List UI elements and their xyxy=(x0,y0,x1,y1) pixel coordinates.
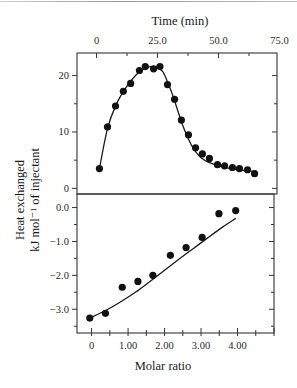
data-point xyxy=(244,166,251,173)
data-point xyxy=(104,123,111,130)
data-point xyxy=(127,80,134,87)
data-point xyxy=(229,164,236,171)
y-axis-title: Heat exchanged kJ mol⁻¹ of injectant xyxy=(13,148,42,252)
data-point xyxy=(232,207,239,214)
y-tick-label: 10 xyxy=(59,126,70,137)
data-point xyxy=(120,88,127,95)
y-axis-title-line1: Heat exchanged xyxy=(13,159,27,240)
bottom-axis-title: Molar ratio xyxy=(135,359,192,373)
data-point xyxy=(134,278,141,285)
data-point xyxy=(221,162,228,169)
data-point xyxy=(156,63,163,70)
x-tick-label: 50.0 xyxy=(209,35,227,46)
y-tick-label: −1.0 xyxy=(50,236,69,247)
data-point xyxy=(251,170,258,177)
data-point xyxy=(167,252,174,259)
y-tick-label: 20 xyxy=(59,70,70,81)
top-axis-title: Time (min) xyxy=(152,14,209,28)
x-tick-label: 4.00 xyxy=(228,340,246,351)
data-point xyxy=(112,102,119,109)
data-point xyxy=(215,210,222,217)
y-tick-label: 0 xyxy=(64,183,69,194)
x-tick-label: 3.00 xyxy=(192,340,210,351)
data-point xyxy=(178,117,185,124)
x-tick-label: 25.0 xyxy=(148,35,166,46)
data-point xyxy=(119,284,126,291)
data-point xyxy=(164,81,171,88)
y-tick-label: −3.0 xyxy=(50,304,69,315)
data-point xyxy=(149,272,156,279)
data-point xyxy=(136,67,143,74)
isothermal-titration-calorimetry-figure: Time (min) Heat exchanged kJ mol⁻¹ of in… xyxy=(0,0,297,388)
data-point xyxy=(185,131,192,138)
y-tick-label: −2.0 xyxy=(50,270,69,281)
fit-curve xyxy=(90,218,236,318)
data-point xyxy=(199,150,206,157)
y-axis-title-line2: kJ mol⁻¹ of injectant xyxy=(28,148,42,252)
data-point xyxy=(96,165,103,172)
x-tick-label: 1.00 xyxy=(119,340,137,351)
data-point xyxy=(236,165,243,172)
x-tick-label: 0 xyxy=(94,35,99,46)
data-point xyxy=(206,155,213,162)
data-point xyxy=(182,244,189,251)
data-point xyxy=(192,144,199,151)
x-tick-label: 2.00 xyxy=(155,340,173,351)
upper-panel-heat-vs-time: 025.050.075.001020 xyxy=(59,35,289,194)
x-tick-label: 75.0 xyxy=(270,35,288,46)
data-point xyxy=(171,96,178,103)
fit-curve xyxy=(99,66,254,171)
data-point xyxy=(199,234,206,241)
x-tick-label: 0 xyxy=(89,340,94,351)
data-point xyxy=(102,310,109,317)
data-point xyxy=(142,63,149,70)
data-point xyxy=(150,65,157,72)
lower-panel-heat-vs-molar-ratio: 01.002.003.004.000.0−1.0−2.0−3.0 xyxy=(50,194,274,351)
data-point xyxy=(86,314,93,321)
y-tick-label: 0.0 xyxy=(56,202,69,213)
data-point xyxy=(214,161,221,168)
